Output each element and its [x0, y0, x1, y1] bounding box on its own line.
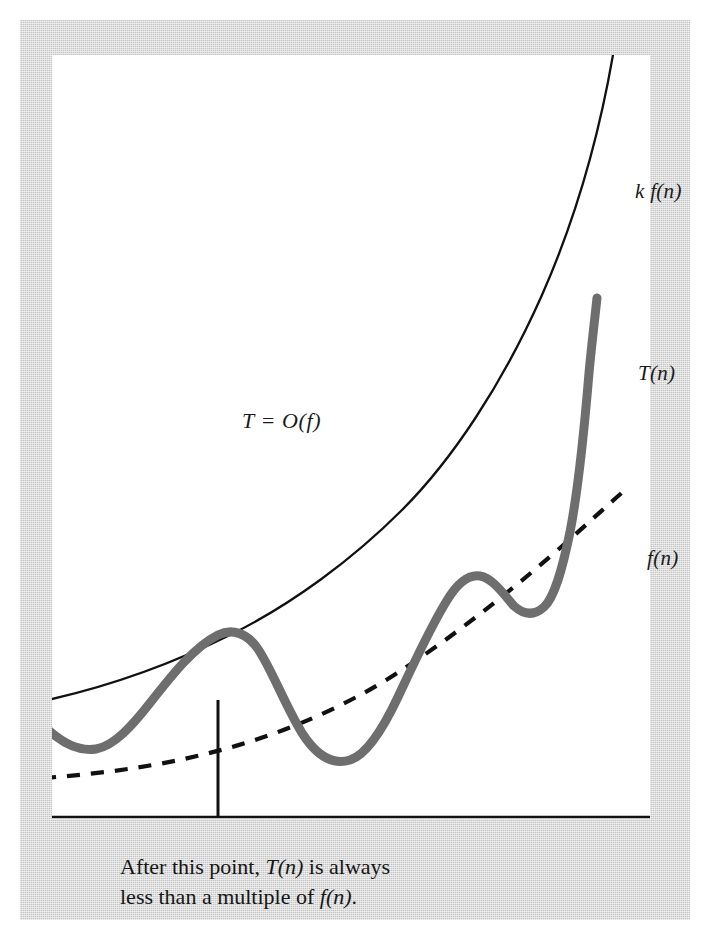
curve-k-f-n [52, 55, 614, 701]
curve-f-n [52, 491, 624, 778]
caption-line-1-post: is always [303, 854, 390, 879]
curve-t-n [52, 298, 597, 762]
figure-caption: After this point, T(n) is always less th… [120, 852, 590, 912]
caption-line-2-math: f(n) [320, 884, 352, 909]
curve-label-f-n: f(n) [647, 546, 679, 571]
caption-line-2-post: . [352, 884, 358, 909]
curve-label-k-f-n: k f(n) [635, 179, 682, 204]
big-o-relation-label: T = O(f) [242, 408, 321, 434]
figure-page: k f(n) T(n) f(n) T = O(f) After this poi… [0, 0, 701, 943]
plot-svg [52, 55, 650, 819]
scan-edge-bottom [0, 920, 701, 943]
caption-line-1: After this point, T(n) is always [120, 852, 590, 882]
caption-line-2-pre: less than a multiple of [120, 884, 320, 909]
caption-line-1-math: T(n) [265, 854, 303, 879]
caption-line-1-pre: After this point, [120, 854, 265, 879]
scan-edge-right [690, 0, 701, 943]
curve-label-t-n: T(n) [638, 361, 675, 386]
plot-panel: k f(n) T(n) f(n) T = O(f) [52, 55, 650, 819]
caption-line-2: less than a multiple of f(n). [120, 882, 590, 912]
